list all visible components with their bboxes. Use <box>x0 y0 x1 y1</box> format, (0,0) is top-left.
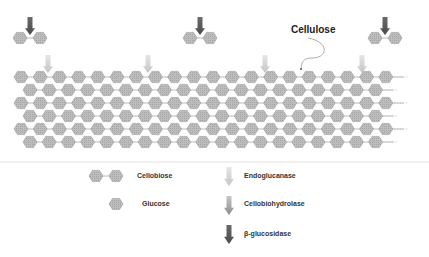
glucose-hexagon <box>110 97 124 108</box>
glucose-hexagon <box>225 71 239 82</box>
glucose-hexagon <box>61 110 75 121</box>
glucose-hexagon <box>302 123 316 134</box>
glucose-hexagon <box>91 71 105 82</box>
glucose-hexagon <box>81 110 95 121</box>
glucose-hexagon <box>196 136 210 147</box>
glucose-hexagon <box>369 84 383 95</box>
glucose-hexagon <box>321 123 335 134</box>
glucose-hexagon <box>302 97 316 108</box>
glucose-hexagon <box>388 32 402 43</box>
glucose-hexagon <box>157 110 171 121</box>
endoglucanase-arrow-icon <box>357 55 367 73</box>
glucose-hexagon <box>349 84 363 95</box>
glucose-hexagon <box>330 110 344 121</box>
glucose-hexagon <box>109 170 123 181</box>
legend-label-cellobiose: Cellobiose <box>137 172 172 179</box>
glucose-hexagon <box>33 32 47 43</box>
glucose-hexagon <box>33 123 47 134</box>
glucose-hexagon <box>129 123 143 134</box>
glucose-hexagon <box>72 123 86 134</box>
glucose-hexagon <box>253 110 267 121</box>
glucose-hexagon <box>369 110 383 121</box>
released-cellobiose-units <box>13 17 402 44</box>
glucose-hexagon <box>119 136 133 147</box>
glucose-hexagon <box>14 71 28 82</box>
glucose-hexagon <box>148 123 162 134</box>
glucose-hexagon <box>234 84 248 95</box>
glucose-hexagon <box>14 97 28 108</box>
glucose-hexagon <box>177 136 191 147</box>
pointer-curve <box>301 38 324 69</box>
glucose-hexagon <box>360 71 374 82</box>
glucose-hexagon <box>196 84 210 95</box>
glucose-hexagon <box>369 136 383 147</box>
glucose-hexagon <box>61 136 75 147</box>
glucose-hexagon <box>302 71 316 82</box>
glucose-hexagon <box>273 84 287 95</box>
glucose-hexagon <box>138 110 152 121</box>
glucose-hexagon <box>292 110 306 121</box>
glucose-hexagon <box>264 71 278 82</box>
glucose-hexagon <box>206 97 220 108</box>
glucose-hexagon <box>187 123 201 134</box>
glucose-hexagon <box>110 71 124 82</box>
glucose-hexagon <box>203 32 217 43</box>
glucose-hexagon <box>225 97 239 108</box>
glucose-hexagon <box>100 136 114 147</box>
glucose-hexagon <box>311 84 325 95</box>
glucose-hexagon <box>100 84 114 95</box>
cellulose-label: Cellulose <box>291 24 335 35</box>
glucose-hexagon <box>340 123 354 134</box>
glucose-hexagon <box>81 84 95 95</box>
glucose-hexagon <box>177 110 191 121</box>
glucose-hexagon <box>283 123 297 134</box>
glucose-hexagon <box>52 97 66 108</box>
glucose-hexagon <box>72 71 86 82</box>
glucose-hexagon <box>61 84 75 95</box>
glucose-hexagon <box>206 71 220 82</box>
glucose-hexagon <box>379 123 393 134</box>
glucose-hexagon <box>100 110 114 121</box>
glucose-hexagon <box>340 71 354 82</box>
glucose-hexagon <box>187 71 201 82</box>
glucose-hexagon <box>91 123 105 134</box>
glucose-hexagon <box>273 110 287 121</box>
enzyme-attack-arrows <box>43 55 367 73</box>
glucose-hexagon <box>234 136 248 147</box>
glucose-hexagon <box>177 84 191 95</box>
endoglucanase-legend-arrow-icon <box>224 167 234 186</box>
glucose-hexagon <box>264 97 278 108</box>
glucose-hexagon <box>119 84 133 95</box>
beta-glucosidase-arrow-icon <box>25 17 35 35</box>
glucose-hexagon <box>23 136 37 147</box>
glucose-hexagon <box>91 97 105 108</box>
glucose-hexagon <box>33 97 47 108</box>
glucose-hexagon <box>72 97 86 108</box>
glucose-hexagon <box>225 123 239 134</box>
legend-label-cellobiohydrolase: Cellobiohydrolase <box>244 200 305 207</box>
glucose-hexagon <box>215 110 229 121</box>
endoglucanase-arrow-icon <box>43 55 53 73</box>
glucose-hexagon <box>283 97 297 108</box>
glucose-hexagon <box>321 71 335 82</box>
glucose-hexagon <box>110 123 124 134</box>
glucose-hexagon <box>42 110 56 121</box>
glucose-hexagon <box>311 136 325 147</box>
glucose-hexagon <box>42 136 56 147</box>
glucose-hexagon <box>157 136 171 147</box>
beta-glucosidase-arrow-icon <box>380 17 390 35</box>
glucose-hexagon <box>379 97 393 108</box>
glucose-hexagon <box>23 110 37 121</box>
glucose-hexagon <box>368 32 382 43</box>
cellulose-pointer-curve <box>300 38 324 70</box>
glucose-hexagon <box>215 84 229 95</box>
glucose-hexagon <box>13 32 27 43</box>
glucose-hexagon <box>321 97 335 108</box>
glucose-hexagon <box>206 123 220 134</box>
glucose-hexagon <box>292 136 306 147</box>
glucose-hexagon <box>283 71 297 82</box>
cellobiohydrolase-legend-arrow-icon <box>224 196 234 215</box>
glucose-hexagon <box>330 84 344 95</box>
glucose-hexagon <box>52 123 66 134</box>
glucose-hexagon <box>119 110 133 121</box>
